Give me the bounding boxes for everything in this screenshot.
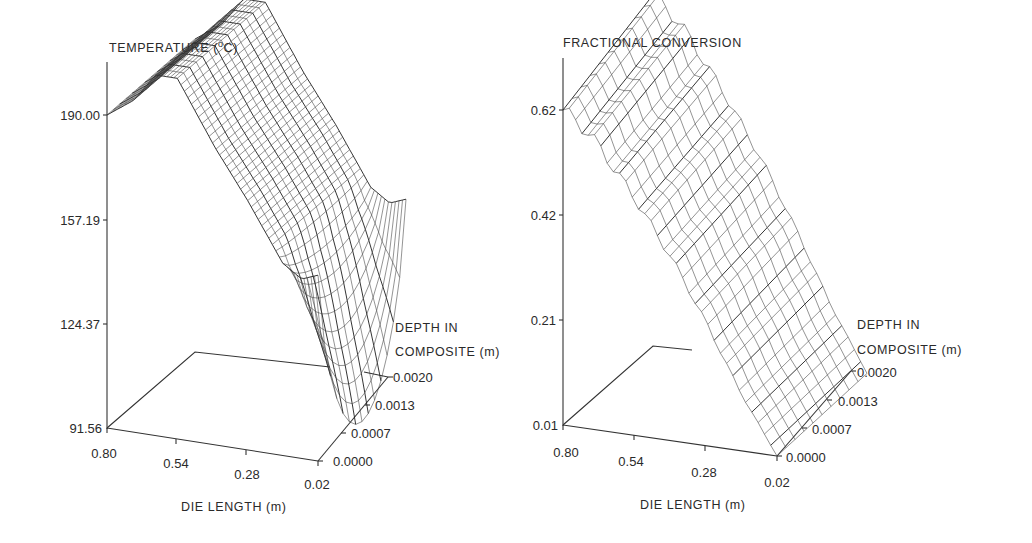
y-tick-label: 0.0000 [333, 454, 373, 469]
x-tick-label: 0.80 [91, 446, 116, 461]
y-tick-label: 0.0013 [838, 394, 878, 409]
y-axis-label-line1: DEPTH IN [395, 321, 458, 335]
x-tick-label: 0.02 [764, 475, 789, 490]
x-tick-label: 0.28 [234, 467, 259, 482]
conversion-surface-mesh [563, 0, 867, 456]
temperature-surface-mesh [107, 0, 406, 424]
x-tick-label: 0.02 [304, 477, 329, 492]
z-tick-label: 0.01 [533, 418, 558, 433]
y-tick-label: 0.0013 [375, 398, 415, 413]
y-tick-label: 0.0020 [857, 365, 897, 380]
figure-canvas: TEMPERATURE (oC) 190.00 157.19 124.37 91… [0, 0, 1032, 543]
floor-back-edge [107, 352, 330, 428]
x-tick-label: 0.80 [553, 445, 578, 460]
y-axis-label-line2: COMPOSITE (m) [395, 345, 500, 359]
die-length-axis [563, 425, 777, 456]
z-tick-label: 0.62 [531, 103, 556, 118]
z-tick-label: 91.56 [69, 421, 102, 436]
z-tick-label: 0.42 [531, 208, 556, 223]
die-length-axis [107, 428, 318, 461]
x-tick-label: 0.28 [691, 465, 716, 480]
x-tick-label: 0.54 [618, 454, 643, 469]
x-axis-label: DIE LENGTH (m) [640, 498, 746, 512]
x-tick-label: 0.54 [163, 456, 188, 471]
y-tick-label: 0.0020 [393, 370, 433, 385]
y-tick-label: 0.0007 [812, 422, 852, 437]
conversion-chart-title: FRACTIONAL CONVERSION [563, 36, 742, 50]
z-tick-label: 190.00 [60, 108, 100, 123]
z-tick-label: 157.19 [60, 213, 100, 228]
depth-axis [318, 377, 388, 461]
floor-back-edge [364, 372, 388, 377]
x-axis-label: DIE LENGTH (m) [181, 500, 287, 514]
z-tick-label: 0.21 [531, 313, 556, 328]
y-tick-label: 0.0007 [351, 426, 391, 441]
y-tick-label: 0.0000 [786, 450, 826, 465]
y-axis-label-line2: COMPOSITE (m) [857, 343, 962, 357]
temperature-chart: TEMPERATURE (oC) 190.00 157.19 124.37 91… [60, 0, 500, 514]
depth-axis [777, 371, 851, 456]
floor-back-edge [563, 346, 692, 425]
y-axis-label-line1: DEPTH IN [857, 318, 920, 332]
conversion-chart: FRACTIONAL CONVERSION 0.62 0.42 0.21 0.0… [531, 0, 962, 512]
z-tick-label: 124.37 [60, 317, 100, 332]
